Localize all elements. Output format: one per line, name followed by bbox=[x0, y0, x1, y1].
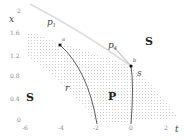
region-s-right: S bbox=[145, 35, 153, 48]
y-tick: 0.8 bbox=[10, 72, 20, 79]
y-tick: 0 bbox=[17, 116, 21, 123]
region-s-left: S bbox=[26, 91, 34, 104]
x-tick: -2 bbox=[93, 124, 99, 131]
point-b bbox=[129, 64, 132, 67]
label-s: s bbox=[137, 68, 142, 78]
label-p1: p1 bbox=[47, 17, 56, 28]
point-a bbox=[58, 43, 61, 46]
y-tick: 2 bbox=[17, 7, 21, 14]
x-axis-label: t bbox=[175, 124, 179, 134]
dotted-region-p bbox=[28, 32, 178, 124]
x-tick: -6 bbox=[22, 124, 28, 131]
label-r: r bbox=[65, 83, 70, 93]
y-axis-label: x bbox=[9, 14, 14, 24]
y-tick: 0.4 bbox=[10, 95, 20, 102]
phase-diagram: x 2 1.6 1.2 0.8 0.4 0 -6 -4 -2 0 2 t p1 … bbox=[0, 0, 193, 140]
x-tick: 2 bbox=[164, 124, 168, 131]
y-tick: 1.6 bbox=[10, 29, 20, 36]
region-p: P bbox=[108, 90, 116, 103]
label-a: a bbox=[62, 36, 65, 42]
label-b: b bbox=[133, 57, 136, 63]
x-tick: -4 bbox=[58, 124, 64, 131]
x-tick: 0 bbox=[129, 124, 133, 131]
label-p4: p4 bbox=[108, 40, 117, 51]
y-tick: 1.2 bbox=[10, 52, 20, 59]
